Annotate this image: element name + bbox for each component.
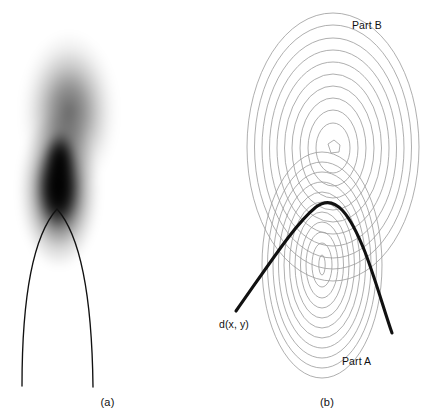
panel-b-plot xyxy=(215,0,439,412)
panel-a-caption: (a) xyxy=(0,396,215,408)
contour-ring xyxy=(292,86,374,210)
contour-ring xyxy=(285,74,382,222)
contour-ring xyxy=(262,38,404,258)
density-cloud xyxy=(19,32,117,268)
label-decision-curve: d(x, y) xyxy=(219,318,249,330)
contour-ring xyxy=(301,222,344,308)
contour-ring xyxy=(273,172,371,358)
density-cloud-core-upper xyxy=(44,130,76,190)
contour-ring xyxy=(262,152,382,378)
contour-set-part-a xyxy=(262,152,382,378)
panel-b-caption: (b) xyxy=(215,396,439,408)
panel-a: (a) xyxy=(0,0,215,412)
panel-b: (b) xyxy=(215,0,439,412)
contour-ring xyxy=(316,123,350,173)
decision-curve-panel-b xyxy=(236,203,392,333)
panel-a-plot xyxy=(0,0,215,412)
contour-ring-innermost xyxy=(328,140,340,153)
contour-ring xyxy=(295,212,349,318)
contour-ring-innermost xyxy=(319,255,325,275)
figure-root: (a) xyxy=(0,0,439,412)
contour-ring xyxy=(290,202,355,328)
label-part-b: Part B xyxy=(352,19,382,31)
contour-ring xyxy=(300,98,366,198)
contour-ring xyxy=(306,232,338,298)
label-part-a: Part A xyxy=(342,355,371,367)
contour-ring xyxy=(255,25,412,269)
contour-ring xyxy=(312,243,332,287)
contour-ring xyxy=(277,62,389,234)
